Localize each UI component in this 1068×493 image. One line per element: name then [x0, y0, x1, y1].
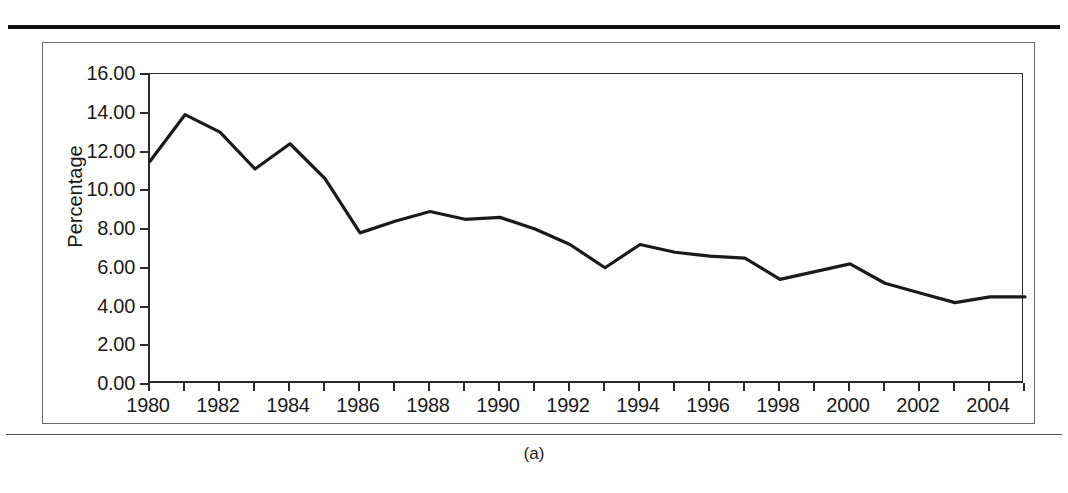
- x-axis-tick: [323, 383, 325, 391]
- y-axis-tick: [140, 306, 148, 308]
- y-axis-tick: [140, 73, 148, 75]
- y-axis-tick: [140, 112, 148, 114]
- x-axis-tick: [883, 383, 885, 391]
- y-axis-tick: [140, 228, 148, 230]
- y-axis-tick-label: 16.00: [86, 62, 135, 85]
- x-axis-tick-label: 1992: [546, 394, 589, 417]
- x-axis-tick-label: 2000: [826, 394, 869, 417]
- x-axis-tick-label: 2002: [896, 394, 939, 417]
- x-axis-tick-label: 1986: [336, 394, 379, 417]
- plot-area: [148, 73, 1023, 383]
- x-axis-tick-label: 1990: [476, 394, 519, 417]
- y-axis-tick-label: 0.00: [97, 372, 135, 395]
- y-axis-tick-label: 8.00: [97, 217, 135, 240]
- y-axis-tick: [140, 344, 148, 346]
- x-axis-tick: [393, 383, 395, 391]
- x-axis-tick: [1023, 383, 1025, 391]
- x-axis-tick-label: 1984: [266, 394, 309, 417]
- x-axis-tick: [253, 383, 255, 391]
- x-axis-tick: [848, 383, 850, 391]
- x-axis-tick: [148, 383, 150, 391]
- x-axis-tick: [183, 383, 185, 391]
- y-axis-tick: [140, 189, 148, 191]
- x-axis-tick: [218, 383, 220, 391]
- x-axis-tick: [708, 383, 710, 391]
- x-axis-tick-label: 1994: [616, 394, 659, 417]
- x-axis-tick: [743, 383, 745, 391]
- x-axis-tick: [638, 383, 640, 391]
- x-axis-tick: [498, 383, 500, 391]
- y-axis-tick-label: 10.00: [86, 178, 135, 201]
- y-axis-tick: [140, 267, 148, 269]
- page-bottom-rule: [6, 434, 1062, 435]
- x-axis-tick: [673, 383, 675, 391]
- y-axis-tick-label: 2.00: [97, 333, 135, 356]
- x-axis-tick: [778, 383, 780, 391]
- y-axis-tick-label: 12.00: [86, 139, 135, 162]
- x-axis-tick-label: 2004: [966, 394, 1009, 417]
- y-axis-tick-label: 14.00: [86, 100, 135, 123]
- figure-caption: (a): [0, 444, 1068, 464]
- x-axis-tick-label: 1988: [406, 394, 449, 417]
- y-axis-tick: [140, 151, 148, 153]
- figure-frame: Percentage 0.002.004.006.008.0010.0012.0…: [42, 42, 1035, 424]
- x-axis-tick: [568, 383, 570, 391]
- series-line: [150, 74, 1025, 384]
- x-axis-tick: [463, 383, 465, 391]
- x-axis-tick: [988, 383, 990, 391]
- x-axis-tick: [918, 383, 920, 391]
- x-axis-tick: [358, 383, 360, 391]
- x-axis-tick: [533, 383, 535, 391]
- x-axis-tick: [288, 383, 290, 391]
- y-axis-tick: [140, 383, 148, 385]
- x-axis-tick-label: 1996: [686, 394, 729, 417]
- x-axis-tick-label: 1982: [196, 394, 239, 417]
- x-axis-tick-label: 1998: [756, 394, 799, 417]
- y-axis: 0.002.004.006.008.0010.0012.0014.0016.00: [43, 73, 148, 383]
- x-axis-tick: [603, 383, 605, 391]
- y-axis-tick-label: 6.00: [97, 255, 135, 278]
- page-top-rule: [8, 25, 1060, 29]
- x-axis-tick-label: 1980: [126, 394, 169, 417]
- x-axis-tick: [813, 383, 815, 391]
- x-axis-tick: [953, 383, 955, 391]
- y-axis-tick-label: 4.00: [97, 294, 135, 317]
- x-axis-tick: [428, 383, 430, 391]
